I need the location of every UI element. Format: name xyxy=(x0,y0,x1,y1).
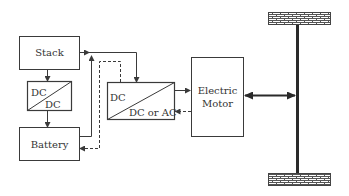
main-converter-block: DC DC or AC xyxy=(108,83,178,120)
converter-output-label: DC or AC xyxy=(129,107,177,118)
electric-motor-block: Electric Motor xyxy=(192,58,244,137)
dcdc-converter-block: DC DC xyxy=(28,82,72,111)
bus-to-converter-arrow xyxy=(89,53,137,83)
battery-to-bus-line xyxy=(80,56,92,137)
dcdc-input-label: DC xyxy=(31,87,47,98)
stack-label: Stack xyxy=(35,47,64,58)
battery-label: Battery xyxy=(31,139,69,150)
converter-input-label: DC xyxy=(110,92,126,103)
powertrain-diagram: Stack DC DC Battery DC DC or AC Electric… xyxy=(0,0,349,196)
stack-block: Stack xyxy=(20,37,80,70)
battery-block: Battery xyxy=(20,128,80,161)
motor-label-line2: Motor xyxy=(202,98,233,109)
motor-label-line1: Electric xyxy=(198,85,238,96)
bottom-wheel xyxy=(269,174,331,186)
top-wheel xyxy=(269,13,331,25)
axle-shaft xyxy=(296,24,299,173)
dcdc-output-label: DC xyxy=(45,99,61,110)
